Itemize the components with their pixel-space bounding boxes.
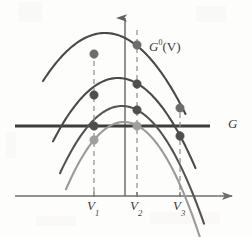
axis-label-v2: V2 [130,199,142,215]
axis-label-v3: V3 [173,199,185,215]
data-point-p-c2-v3 [176,132,184,140]
curve-family-label-superscript: 0 [158,38,162,47]
data-point-p-c4-v2 [133,122,141,130]
axis-label-v1-base: V [87,198,95,213]
data-point-p-c3-v2 [133,106,141,114]
reference-line-label: G [228,117,237,130]
axis-label-v1-subscript: 1 [95,208,99,218]
figure-canvas: G0(V) G V1 V2 V3 [0,0,252,237]
axis-label-v2-subscript: 2 [138,208,142,218]
curve-family-label: G0(V) [149,40,180,53]
data-point-p-c1-v3 [176,104,184,112]
axis-label-v3-base: V [173,198,181,213]
curve-family-label-argument: (V) [162,39,180,54]
figure-plot [0,0,252,237]
curves-group [43,33,212,237]
data-point-p-c2-v1 [90,91,98,99]
axis-label-v2-base: V [130,198,138,213]
data-point-p-c2-v2 [133,80,141,88]
data-point-p-c1-v2 [133,41,141,49]
data-point-p-c3-v1 [90,122,98,130]
axis-label-v1: V1 [87,199,99,215]
data-point-p-c1-v1 [90,50,98,58]
data-points-group [90,41,184,144]
data-point-p-c4-v1 [90,136,98,144]
curve-family-label-base: G [149,39,158,54]
axis-label-v3-subscript: 3 [181,208,185,218]
